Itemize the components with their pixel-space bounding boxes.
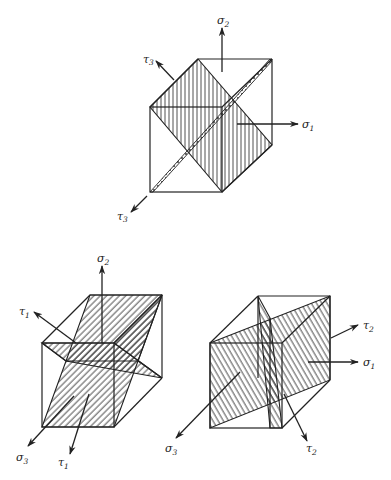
br-sigma3-label: σ3 <box>165 442 178 457</box>
bl-tau1-lower-label: τ1 <box>58 456 69 471</box>
top-tau3-lower-arrow <box>131 196 147 212</box>
br-tau2-lower-arrow <box>284 394 307 441</box>
bottom-right-cube: τ2 σ1 σ3 τ2 <box>165 296 375 457</box>
top-cube: σ2 σ1 τ3 τ3 <box>117 14 314 224</box>
bl-tau1-upper-label: τ1 <box>19 305 30 320</box>
top-tau3-upper-arrow <box>156 61 174 80</box>
br-tau2-lower-label: τ2 <box>306 442 317 457</box>
br-sigma1-label: σ1 <box>363 356 375 371</box>
top-tau3-upper-label: τ3 <box>143 53 154 67</box>
bottom-left-cube: σ2 τ1 σ3 τ1 <box>16 252 162 471</box>
top-tau3-lower-label: τ3 <box>117 210 128 224</box>
stress-cubes-diagram: σ2 σ1 τ3 τ3 σ2 τ1 σ3 τ1 <box>0 0 391 480</box>
bl-sigma2-label: σ2 <box>97 252 110 267</box>
bl-sigma3-label: σ3 <box>16 451 29 466</box>
top-sigma1-label: σ1 <box>302 118 314 133</box>
br-tau2-upper-arrow <box>331 325 358 338</box>
top-sigma2-label: σ2 <box>217 14 230 29</box>
br-tau2-upper-label: τ2 <box>363 319 374 334</box>
